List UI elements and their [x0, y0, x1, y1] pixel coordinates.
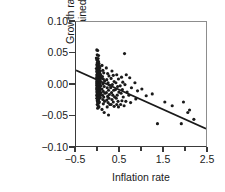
x-tick-mark [118, 147, 119, 152]
regression-line-layer [76, 22, 206, 146]
x-tick-label: −0.5 [55, 154, 95, 165]
y-tick-label: −0.10 [34, 142, 68, 153]
x-tick-mark [74, 147, 75, 152]
plot-area [75, 21, 207, 147]
regression-line [76, 70, 206, 128]
y-tick-label: −0.05 [34, 110, 68, 121]
x-minor-tick-mark [140, 147, 141, 151]
x-tick-label: 2.5 [187, 154, 225, 165]
x-minor-tick-mark [184, 147, 185, 151]
x-tick-mark [162, 147, 163, 152]
x-tick-mark [206, 147, 207, 152]
x-axis-title: Inflation rate [75, 171, 207, 183]
y-tick-label: 0.10 [34, 16, 68, 27]
scatter-plot-figure: Growth rate (unexplained part) 0.100.050… [0, 0, 225, 192]
y-tick-label: 0.00 [34, 79, 68, 90]
x-tick-label: 0.5 [99, 154, 139, 165]
y-tick-label: 0.05 [34, 47, 68, 58]
x-tick-label: 1.5 [143, 154, 183, 165]
x-minor-tick-mark [96, 147, 97, 151]
